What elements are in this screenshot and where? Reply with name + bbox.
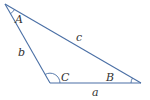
side-label-c: c	[76, 31, 82, 44]
side-b	[5, 4, 50, 83]
angle-arc-b	[131, 78, 133, 83]
angle-label-a: A	[14, 13, 23, 26]
angle-label-b: B	[105, 71, 114, 84]
triangle-diagram: A C B b c a	[0, 0, 150, 100]
angle-label-c: C	[61, 71, 70, 84]
side-label-a: a	[92, 86, 99, 99]
side-label-b: b	[18, 46, 25, 59]
side-c	[5, 4, 141, 83]
angle-arc-a	[11, 10, 15, 14]
